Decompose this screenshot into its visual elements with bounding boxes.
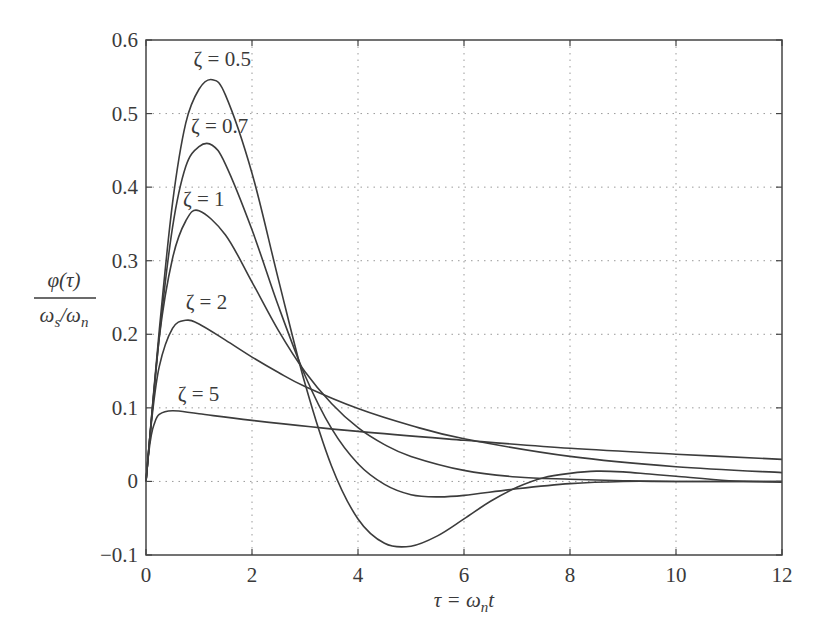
y-axis-label-denominator: ωs/ωn [40,303,89,330]
y-tick-label: 0.5 [112,102,138,126]
y-tick-label: 0 [128,469,139,493]
x-axis-label: τ = ωnt [434,588,496,615]
series-label-2: ζ = 1 [183,187,225,211]
y-tick-label: 0.3 [112,249,138,273]
y-axis-label-numerator: φ(τ) [47,268,80,292]
x-tick-label: 12 [772,563,793,587]
series-label-1: ζ = 0.7 [191,114,248,138]
x-tick-label: 10 [666,563,687,587]
y-tick-label: −0.1 [100,543,138,567]
y-tick-label: 0.4 [112,175,139,199]
series-label-0: ζ = 0.5 [194,47,251,71]
series-label-4: ζ = 5 [178,382,220,406]
series-annotations: ζ = 0.5ζ = 0.7ζ = 1ζ = 2ζ = 5 [178,47,251,406]
y-tick-label: 0.2 [112,322,138,346]
x-tick-label: 6 [459,563,470,587]
impulse-response-chart: 024681012−0.100.10.20.30.40.50.6 ζ = 0.5… [0,0,828,640]
y-tick-label: 0.1 [112,396,138,420]
x-tick-label: 8 [565,563,576,587]
series-label-3: ζ = 2 [186,290,228,314]
y-tick-label: 0.6 [112,28,138,52]
x-tick-label: 2 [247,563,258,587]
x-tick-label: 0 [141,563,152,587]
x-tick-label: 4 [353,563,364,587]
y-axis-label: φ(τ) ωs/ωn [34,268,96,330]
